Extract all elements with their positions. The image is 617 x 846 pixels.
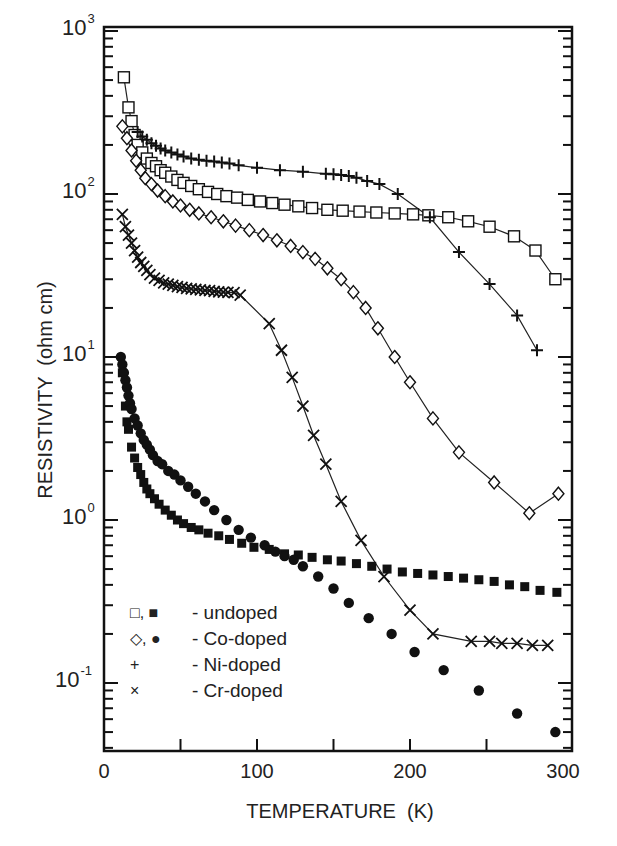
open-diamond-marker xyxy=(297,246,308,259)
open-square-marker xyxy=(408,209,419,220)
cross-marker xyxy=(320,459,331,470)
legend-entry-cr-doped: × - Cr-doped xyxy=(130,678,287,704)
filled-square-marker xyxy=(474,575,483,584)
plus-marker xyxy=(223,157,235,169)
cross-marker-icon: × xyxy=(130,678,192,704)
legend-label: - undoped xyxy=(192,600,278,626)
filled-square-marker xyxy=(124,425,133,434)
filled-circle-marker xyxy=(409,647,419,657)
open-square-marker xyxy=(242,194,253,205)
filled-circle-marker xyxy=(512,708,522,718)
plus-marker xyxy=(165,146,177,158)
filled-square-marker xyxy=(323,555,332,564)
filled-square-marker xyxy=(444,572,453,581)
filled-square-marker xyxy=(520,582,529,591)
filled-square-marker xyxy=(536,586,545,595)
filled-square-marker xyxy=(308,553,317,562)
chart-canvas xyxy=(0,0,617,846)
x-tick-label: 300 xyxy=(546,760,579,783)
filled-square-marker xyxy=(352,559,361,568)
open-square-marker xyxy=(337,205,348,216)
plus-marker xyxy=(274,164,286,176)
plus-marker xyxy=(392,188,404,200)
filled-circle-marker xyxy=(200,496,210,506)
filled-circle-marker xyxy=(344,598,354,608)
filled-square-marker xyxy=(214,531,223,540)
open-diamond-marker xyxy=(553,487,564,500)
filled-circle-marker xyxy=(386,629,396,639)
y-tick-label: 102 xyxy=(62,178,95,204)
filled-circle-marker xyxy=(183,482,193,492)
series-line xyxy=(138,132,537,350)
open-diamond-marker xyxy=(206,211,217,224)
legend-entry-co-doped: ◇, ● - Co-doped xyxy=(130,626,287,652)
filled-square-marker xyxy=(127,443,136,452)
open-square-marker xyxy=(221,191,232,202)
filled-circle-marker xyxy=(126,404,136,414)
open-square-marker xyxy=(126,116,137,127)
x-tick-label: 100 xyxy=(240,760,273,783)
filled-circle-marker xyxy=(474,685,484,695)
legend-entry-ni-doped: + - Ni-doped xyxy=(130,652,287,678)
open-diamond-marker xyxy=(524,507,535,520)
open-square-marker xyxy=(463,216,474,227)
plus-marker xyxy=(171,148,183,160)
open-square-marker xyxy=(371,207,382,218)
filled-square-marker xyxy=(237,539,246,548)
filled-square-marker xyxy=(179,519,188,528)
diamond-circle-marker-icon: ◇, ● xyxy=(130,626,192,652)
open-diamond-marker xyxy=(322,262,333,275)
plus-marker xyxy=(185,153,197,165)
open-square-marker xyxy=(530,245,541,256)
plus-marker xyxy=(361,175,373,187)
cross-marker xyxy=(336,496,347,507)
y-tick-label: 101 xyxy=(62,341,95,367)
cross-marker xyxy=(405,605,416,616)
open-diamond-marker xyxy=(372,322,383,335)
filled-square-marker xyxy=(398,567,407,576)
cross-marker xyxy=(120,221,131,232)
filled-square-marker xyxy=(194,525,203,534)
y-axis-label: RESISTIVITY (ohm cm) xyxy=(34,281,57,498)
legend: □, ■ - undoped ◇, ● - Co-doped + - Ni-do… xyxy=(130,600,287,704)
plus-marker xyxy=(297,166,309,178)
open-diamond-marker xyxy=(389,351,400,364)
x-axis-label: TEMPERATURE (K) xyxy=(246,800,433,823)
legend-label: - Cr-doped xyxy=(192,678,283,704)
open-square-marker xyxy=(123,102,134,113)
open-square-marker xyxy=(509,231,520,242)
filled-circle-marker xyxy=(191,488,201,498)
cross-marker xyxy=(264,318,275,329)
cross-marker xyxy=(276,345,287,356)
y-tick-label: 103 xyxy=(62,15,95,41)
y-tick-label: 10-1 xyxy=(55,667,92,693)
filled-square-marker xyxy=(225,535,234,544)
cross-marker xyxy=(427,628,438,639)
cross-marker xyxy=(356,535,367,546)
filled-circle-marker xyxy=(298,561,308,571)
open-square-marker xyxy=(232,192,243,203)
filled-circle-marker xyxy=(550,727,560,737)
cross-marker xyxy=(297,401,308,412)
legend-label: - Ni-doped xyxy=(192,652,281,678)
filled-circle-marker xyxy=(270,546,280,556)
filled-square-marker xyxy=(459,574,468,583)
plus-marker xyxy=(178,150,190,162)
open-diamond-marker xyxy=(285,239,296,252)
filled-circle-marker xyxy=(289,555,299,565)
x-tick-label: 0 xyxy=(98,760,109,783)
open-square-marker xyxy=(307,203,318,214)
filled-circle-marker xyxy=(259,540,269,550)
open-square-marker xyxy=(443,212,454,223)
open-diamond-marker xyxy=(310,252,321,265)
open-square-marker xyxy=(484,221,495,232)
filled-square-marker xyxy=(337,557,346,566)
filled-circle-marker xyxy=(328,583,338,593)
filled-square-marker xyxy=(552,588,561,597)
open-diamond-marker xyxy=(230,219,241,232)
open-square-marker xyxy=(255,196,266,207)
filled-square-marker xyxy=(367,562,376,571)
plus-marker xyxy=(233,159,245,171)
filled-circle-marker xyxy=(221,515,231,525)
filled-circle-marker xyxy=(313,571,323,581)
